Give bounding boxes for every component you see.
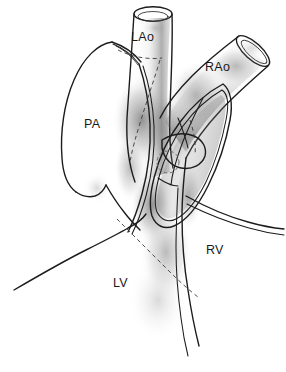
label-lao: LAo [131, 30, 154, 44]
label-lv: LV [113, 276, 128, 290]
label-pa: PA [84, 117, 101, 131]
anatomical-illustration: LAo RAo PA RV LV [0, 0, 286, 372]
figure-root: LAo RAo PA RV LV [0, 0, 286, 372]
label-rv: RV [206, 243, 224, 257]
label-rao: RAo [205, 60, 230, 74]
